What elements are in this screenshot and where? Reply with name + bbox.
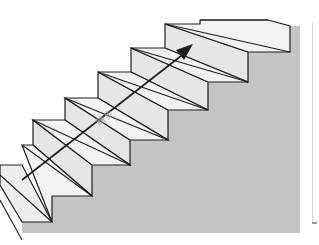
staircase-diagram xyxy=(0,0,319,245)
page-edge-rule xyxy=(312,22,313,222)
page-edge-rule-foot xyxy=(312,222,317,224)
